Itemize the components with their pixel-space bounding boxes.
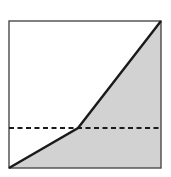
figure-root <box>0 0 171 177</box>
geometry-diagram <box>0 0 171 177</box>
